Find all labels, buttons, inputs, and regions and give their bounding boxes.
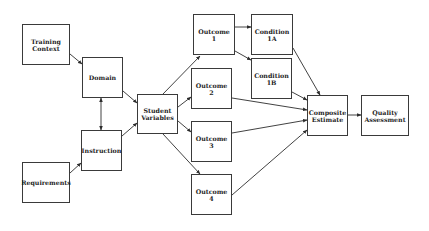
node-requirements: Requirements [22,162,70,203]
node-instruction: Instruction [81,130,122,171]
node-outcome-3: Outcome 3 [191,121,232,162]
edge-outcome-3-to-composite-estimate [232,120,307,133]
node-condition-1b: Condition 1B [251,58,292,99]
node-composite-estimate: Composite Estimate [307,95,348,136]
node-quality-assessment: Quality Assessment [361,95,409,136]
edge-student-variables-to-outcome-3 [178,121,191,132]
node-student-variables: Student Variables [137,94,178,134]
edge-domain-to-student-variables [123,91,137,103]
edge-outcome-4-to-composite-estimate [232,130,307,195]
edge-outcome-2-to-composite-estimate [232,98,307,110]
node-training-context: Training Context [22,24,70,65]
flow-diagram: Training Context Domain Instruction Requ… [0,0,429,231]
edge-requirements-to-instruction [70,163,81,173]
edge-training-context-to-domain [70,54,82,64]
node-condition-1a: Condition 1A [251,14,293,55]
edge-student-variables-to-outcome-2 [178,97,191,107]
edge-instruction-to-student-variables [122,123,137,136]
edge-condition-1a-to-composite-estimate [293,48,320,95]
edge-outcome-1-to-condition-1b [235,51,251,60]
node-outcome-1: Outcome 1 [193,14,235,55]
edge-condition-1b-to-composite-estimate [292,92,307,100]
node-outcome-4: Outcome 4 [191,174,232,215]
node-outcome-2: Outcome 2 [191,68,232,109]
node-domain: Domain [82,57,123,98]
